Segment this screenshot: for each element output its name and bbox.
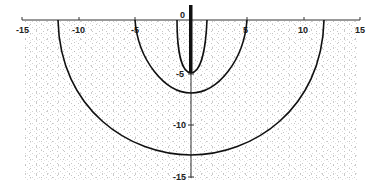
x-tick-label: 10 (298, 25, 308, 35)
x-tick-label: -15 (16, 25, 29, 35)
source-bar (189, 5, 193, 73)
y-tick-label: -10 (173, 120, 186, 130)
y-tick-label: -5 (176, 69, 184, 79)
y-tick-label: -15 (173, 172, 186, 182)
x-tick-label: -10 (72, 25, 85, 35)
diagram-canvas: -15 -10 -5 5 10 15 0 -5 -10 -15 (0, 0, 376, 189)
x-tick-label: 15 (355, 25, 365, 35)
y-tick-label: 0 (180, 10, 185, 20)
